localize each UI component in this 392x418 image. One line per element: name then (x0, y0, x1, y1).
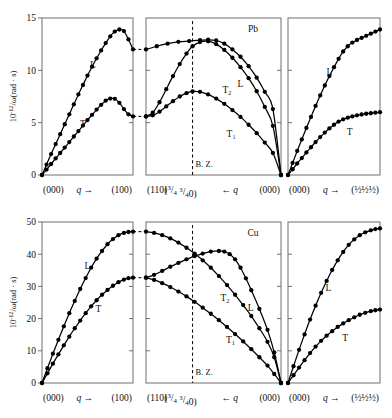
data-point (225, 325, 229, 329)
y-axis-label: 10-12/ω(rad · s) (7, 71, 18, 123)
phonon-dispersion-figure: 05101510-12/ω(rad · s)LT(000)(100)q →B. … (0, 0, 392, 418)
data-point (249, 288, 253, 292)
y-tick-label: 10 (27, 66, 37, 76)
data-point (126, 276, 130, 280)
data-point (222, 102, 226, 106)
data-point (336, 119, 340, 123)
data-point (81, 83, 85, 87)
data-point (255, 131, 259, 135)
data-point (352, 315, 356, 319)
data-point (192, 300, 196, 304)
data-point (214, 42, 218, 46)
data-point (99, 103, 103, 107)
data-point (257, 307, 261, 311)
data-point (62, 343, 66, 347)
data-point (238, 55, 242, 59)
data-point (233, 257, 237, 261)
data-point (272, 372, 276, 376)
data-point (350, 40, 354, 44)
data-point (378, 307, 382, 311)
data-point (85, 73, 89, 77)
data-point (330, 329, 334, 333)
data-point (104, 99, 108, 103)
branch-label-L: L (238, 79, 244, 89)
data-point (263, 90, 267, 94)
data-point (73, 326, 77, 330)
data-point (346, 115, 350, 119)
data-point (117, 27, 121, 31)
panel-frame (42, 18, 133, 175)
axis-q-label: ← q (221, 393, 238, 403)
data-point (286, 381, 290, 385)
axis-q-label: ← q (221, 185, 238, 195)
y-tick-label: 0 (31, 378, 36, 388)
y-axis-label-text: 10-12/ω(rad · s) (7, 277, 18, 329)
branch-label-T2: T2 (223, 85, 232, 97)
data-point (363, 311, 367, 315)
panel-pb-p1: LT(000)(100)q → (40, 18, 146, 196)
data-point (89, 304, 93, 308)
y-tick-label: 0 (31, 170, 36, 180)
data-point (222, 41, 226, 45)
data-point (78, 287, 82, 291)
branch-label-L: L (326, 283, 332, 293)
data-point (116, 233, 120, 237)
brillouin-zone-label: B. Z. (196, 159, 213, 169)
data-point (304, 150, 308, 154)
data-point (67, 311, 71, 315)
data-point (84, 311, 88, 315)
data-point (341, 49, 345, 53)
data-point (184, 51, 188, 55)
data-point (54, 156, 58, 160)
data-point (206, 92, 210, 96)
data-point (126, 230, 130, 234)
data-point (279, 173, 283, 177)
data-point (164, 87, 168, 91)
data-point (144, 276, 148, 280)
axis-right-label: (100) (111, 185, 132, 196)
data-point (76, 92, 80, 96)
branch-label-T: T (342, 333, 348, 343)
data-point (378, 226, 382, 230)
data-point (332, 65, 336, 69)
data-point (346, 44, 350, 48)
data-point (78, 318, 82, 322)
data-point (51, 362, 55, 366)
data-point (230, 108, 234, 112)
data-point (318, 93, 322, 97)
data-point (144, 114, 148, 118)
data-point (184, 91, 188, 95)
data-point (263, 105, 267, 109)
data-point (355, 38, 359, 42)
data-point (217, 318, 221, 322)
data-point (330, 268, 334, 272)
branch-label-T2: T2 (221, 293, 230, 305)
axis-right-label: (000) (259, 185, 280, 196)
data-point (291, 373, 295, 377)
axis-zone-label: (3/4 3/40) (164, 184, 196, 201)
data-point (40, 381, 44, 385)
data-point (295, 161, 299, 165)
data-point (113, 97, 117, 101)
data-point (265, 340, 269, 344)
data-point (246, 76, 250, 80)
data-point (113, 29, 117, 33)
data-point (297, 365, 301, 369)
data-point (157, 100, 161, 104)
data-point (341, 250, 345, 254)
data-point (309, 115, 313, 119)
data-point (201, 258, 205, 262)
dispersion-plot-svg: 05101510-12/ω(rad · s)LT(000)(100)q →B. … (0, 0, 392, 418)
data-point (54, 142, 58, 146)
data-point (178, 62, 182, 66)
data-point (168, 285, 172, 289)
data-point (297, 348, 301, 352)
data-point (230, 56, 234, 60)
data-point (238, 115, 242, 119)
data-point (255, 89, 259, 93)
data-point (319, 291, 323, 295)
data-point (265, 363, 269, 367)
data-point (122, 277, 126, 281)
y-axis-label: 10-12/ω(rad · s) (7, 277, 18, 329)
data-point (230, 47, 234, 51)
